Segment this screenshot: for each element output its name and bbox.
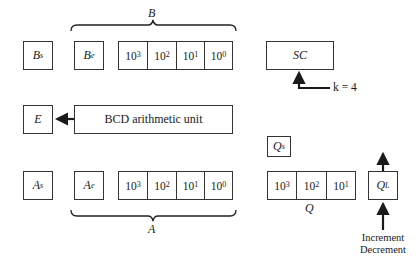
b-brace: [71, 20, 236, 31]
a-digit-cell: 100: [205, 172, 232, 199]
q-digit-cell: 103: [268, 172, 297, 199]
q-digit-register: 103 102 101: [267, 171, 356, 200]
as-sub: s: [40, 181, 43, 190]
qs-register: Qs: [267, 136, 291, 157]
a-digit-cell: 101: [177, 172, 205, 199]
alu-label: BCD arithmetic unit: [105, 112, 203, 127]
bs-register: Bs: [23, 41, 53, 70]
a-brace-path: [71, 210, 236, 221]
qs-label: Q: [273, 139, 282, 154]
a-digit-cell: 103: [119, 172, 148, 199]
b-digit-cell: 102: [148, 42, 177, 69]
decrement-label: Decrement: [355, 244, 411, 256]
ql-label: Q: [376, 178, 385, 193]
be-sub: e: [91, 51, 95, 60]
b-digit-cell: 100: [205, 42, 232, 69]
b-brace-label: B: [148, 6, 155, 21]
ae-sub: e: [91, 181, 95, 190]
be-label: B: [84, 48, 91, 63]
b-digit-register: 103 102 101 100: [118, 41, 233, 70]
b-digit-cell: 101: [177, 42, 205, 69]
ae-register: Ae: [74, 171, 104, 200]
bs-sub: s: [40, 51, 43, 60]
ae-label: A: [84, 178, 91, 193]
as-register: As: [23, 171, 53, 200]
q-digit-cell: 102: [297, 172, 327, 199]
ql-register: QL: [368, 171, 398, 200]
q-digit-cell: 101: [327, 172, 355, 199]
be-register: Be: [74, 41, 104, 70]
ql-input-label: Increment Decrement: [355, 232, 411, 256]
a-brace: [71, 78, 148, 84]
e-label: E: [34, 112, 41, 127]
a-brace-label: A: [148, 222, 155, 237]
sc-label: SC: [293, 48, 307, 63]
a-digit-register: 103 102 101 100: [118, 171, 233, 200]
k-to-sc-arrow: [299, 73, 330, 88]
b-digit-cell: 103: [119, 42, 148, 69]
bs-label: B: [33, 48, 40, 63]
bcd-arithmetic-unit: BCD arithmetic unit: [74, 105, 233, 134]
e-register: E: [23, 105, 53, 134]
qs-sub: s: [282, 142, 285, 151]
ql-sub: L: [385, 181, 389, 190]
sc-register: SC: [266, 41, 334, 70]
a-digit-cell: 102: [148, 172, 177, 199]
as-label: A: [33, 178, 40, 193]
k-equals-label: k = 4: [333, 81, 357, 93]
q-label: Q: [305, 201, 314, 216]
increment-label: Increment: [355, 232, 411, 244]
